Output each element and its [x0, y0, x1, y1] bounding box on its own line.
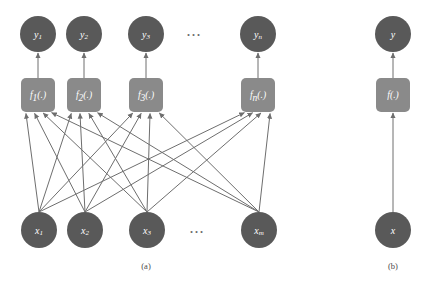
panel-a-output-nodes: y1y2y3yn: [20, 16, 276, 52]
edge-x3-to-f1: [43, 113, 147, 212]
edge-x3-to-f3: [147, 113, 150, 212]
edge-xm-to-fn: [259, 113, 270, 212]
function-box-f2: [67, 78, 101, 112]
input-node-x: [375, 212, 411, 248]
function-box-f1: [21, 78, 55, 112]
edge-x1-to-fn: [39, 113, 244, 212]
function-box-f3: [129, 78, 163, 112]
panel-b-caption: (b): [388, 261, 398, 271]
input-node-x1: [21, 212, 57, 248]
edge-x2-to-f1: [35, 113, 85, 212]
output-node-yn: [240, 16, 276, 52]
output-node-y2: [66, 16, 102, 52]
diagram-canvas: f1(.)f2(.)f3(.)fn(.) y1y2y3yn x1x2x3xm ·…: [0, 0, 436, 288]
function-box-f: [376, 78, 410, 112]
output-node-y1: [20, 16, 56, 52]
function-box-fn: [241, 78, 275, 112]
edge-xm-to-f2: [98, 113, 259, 212]
edge-x1-to-f1: [26, 113, 39, 212]
input-node-x3: [129, 212, 165, 248]
output-row-ellipsis: ···: [186, 28, 201, 42]
edge-x2-to-f3: [85, 113, 141, 212]
panel-a-input-edges: [26, 113, 270, 212]
panel-a-function-boxes: f1(.)f2(.)f3(.)fn(.): [21, 78, 275, 112]
output-node-y: [375, 16, 411, 52]
input-node-xm: [241, 212, 277, 248]
input-row-ellipsis: ···: [189, 225, 204, 239]
edge-x1-to-f3: [39, 113, 133, 212]
panel-a-caption: (a): [141, 261, 151, 271]
panel-a-output-edges: [38, 53, 258, 78]
output-node-y3: [128, 16, 164, 52]
edge-x1-to-f2: [39, 113, 71, 212]
figure-container: f1(.)f2(.)f3(.)fn(.) y1y2y3yn x1x2x3xm ·…: [0, 0, 436, 288]
input-node-x2: [67, 212, 103, 248]
panel-a-input-nodes: x1x2x3xm: [21, 212, 277, 248]
